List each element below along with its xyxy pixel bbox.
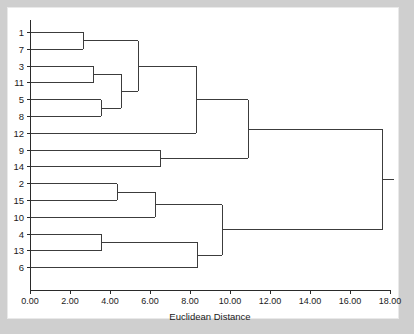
- leaf-label-5: 5: [19, 94, 24, 105]
- leaf-label-14: 14: [13, 161, 24, 172]
- x-axis-tick-label: 10.00: [219, 296, 242, 306]
- leaf-label-3: 3: [19, 61, 24, 72]
- leaf-label-15: 15: [13, 195, 24, 206]
- x-axis-title: Euclidean Distance: [169, 311, 250, 322]
- x-axis-tick-label: 6.00: [141, 296, 159, 306]
- leaf-label-2: 2: [19, 178, 24, 189]
- dendrogram-plot: 1731158129142151041360.002.004.006.008.0…: [0, 0, 414, 334]
- leaf-label-11: 11: [14, 77, 24, 88]
- leaf-label-10: 10: [13, 212, 24, 223]
- leaf-label-8: 8: [19, 111, 24, 122]
- dendrogram-figure: 1731158129142151041360.002.004.006.008.0…: [0, 0, 414, 334]
- leaf-label-9: 9: [19, 145, 24, 156]
- x-axis-tick-label: 8.00: [181, 296, 199, 306]
- leaf-label-7: 7: [19, 44, 24, 55]
- x-axis-tick-label: 16.00: [339, 296, 362, 306]
- x-axis-tick-label: 4.00: [101, 296, 119, 306]
- x-axis-tick-label: 12.00: [259, 296, 282, 306]
- x-axis-tick-label: 18.00: [379, 296, 402, 306]
- x-axis-tick-label: 14.00: [299, 296, 322, 306]
- x-axis-tick-label: 2.00: [61, 296, 79, 306]
- leaf-label-6: 6: [19, 262, 24, 273]
- leaf-label-4: 4: [19, 229, 24, 240]
- leaf-label-1: 1: [19, 27, 24, 38]
- leaf-label-12: 12: [13, 128, 24, 139]
- x-axis-tick-label: 0.00: [21, 296, 39, 306]
- leaf-label-13: 13: [13, 245, 24, 256]
